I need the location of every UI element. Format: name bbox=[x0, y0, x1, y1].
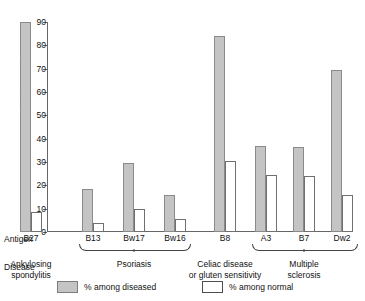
bar-A3-diseased bbox=[255, 146, 266, 232]
legend-swatch-diseased bbox=[57, 281, 78, 293]
disease-label-line2: or gluten sensitivity bbox=[189, 270, 261, 281]
antigen-label-Dw2: Dw2 bbox=[333, 233, 350, 243]
legend-item-diseased[interactable]: % among diseased bbox=[57, 281, 156, 293]
bar-B8-normal bbox=[225, 161, 236, 232]
legend-label-normal: % among normal bbox=[229, 282, 293, 292]
bar-B13-diseased bbox=[82, 189, 93, 232]
bar-Bw17-normal bbox=[134, 209, 145, 232]
bracket-nub-3 bbox=[304, 249, 305, 252]
legend-swatch-normal bbox=[202, 281, 223, 293]
bar-B27-normal bbox=[31, 212, 42, 232]
bar-Bw17-diseased bbox=[123, 163, 134, 232]
group-brackets bbox=[47, 244, 353, 252]
disease-label-line1: Psoriasis bbox=[117, 259, 151, 270]
bracket-group-1 bbox=[79, 244, 191, 251]
disease-label-line1: Ankylosing bbox=[10, 259, 51, 270]
antigen-label-Bw17: Bw17 bbox=[123, 233, 144, 243]
bar-B7-diseased bbox=[293, 147, 304, 232]
disease-label-line1: Multiple sclerosis bbox=[276, 259, 332, 280]
bar-Dw2-normal bbox=[342, 195, 353, 232]
bar-series-container bbox=[47, 22, 353, 232]
disease-label-line1: Celiac disease bbox=[189, 259, 261, 270]
bracket-nub-1 bbox=[134, 249, 135, 252]
legend-label-diseased: % among diseased bbox=[84, 282, 156, 292]
antigen-label-B13: B13 bbox=[85, 233, 100, 243]
bar-B27-diseased bbox=[20, 22, 31, 232]
antigen-label-B8: B8 bbox=[220, 233, 230, 243]
bar-B13-normal bbox=[93, 223, 104, 232]
bar-A3-normal bbox=[266, 175, 277, 232]
disease-label-line2: spondylitis bbox=[10, 270, 51, 281]
hla-antigen-bar-chart: Percentage having antigen 01020304050607… bbox=[0, 0, 365, 301]
disease-label-1: Psoriasis bbox=[117, 259, 151, 270]
bar-B8-diseased bbox=[214, 36, 225, 232]
legend-item-normal[interactable]: % among normal bbox=[202, 281, 293, 293]
disease-group-labels: AnkylosingspondylitisPsoriasisCeliac dis… bbox=[40, 259, 360, 283]
bracket-group-3 bbox=[252, 244, 358, 251]
disease-label-3: Multiple sclerosis bbox=[276, 259, 332, 280]
disease-label-2: Celiac diseaseor gluten sensitivity bbox=[189, 259, 261, 280]
plot-area: 0102030405060708090 bbox=[47, 22, 353, 232]
antigen-label-B7: B7 bbox=[299, 233, 309, 243]
antigen-label-A3: A3 bbox=[261, 233, 271, 243]
disease-label-0: Ankylosingspondylitis bbox=[10, 259, 51, 280]
bar-Dw2-diseased bbox=[331, 70, 342, 232]
bar-Bw16-normal bbox=[175, 219, 186, 232]
chart-legend: % among diseased% among normal bbox=[0, 281, 365, 299]
antigen-label-Bw16: Bw16 bbox=[164, 233, 185, 243]
bar-Bw16-diseased bbox=[164, 195, 175, 232]
antigen-label-B27: B27 bbox=[23, 233, 38, 243]
bar-B7-normal bbox=[304, 176, 315, 232]
